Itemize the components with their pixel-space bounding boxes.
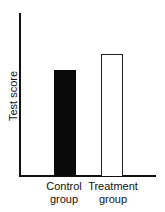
bar-chart: Test score Control group Treatment group [0,0,165,212]
y-axis-line [19,13,21,177]
x-tick-label-line: Treatment [83,180,143,193]
x-tick-label-line: group [83,193,143,206]
bar-treatment-group [101,54,123,176]
x-tick-label-treatment: Treatment group [83,180,143,206]
bar-control-group [54,70,76,176]
y-axis-label: Test score [8,71,19,121]
x-axis-line [19,175,156,177]
